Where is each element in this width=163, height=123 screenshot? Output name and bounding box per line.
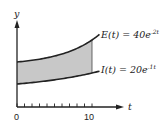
chart: y t 0 10 E(t) = 40e.2t I(t) = 20e.1t [0, 0, 163, 123]
series-label-i: I(t) = 20e.1t [100, 63, 156, 75]
series-label-e: E(t) = 40e.2t [100, 28, 160, 40]
x-tick-label-10: 10 [84, 112, 94, 122]
y-axis-arrow [15, 20, 20, 28]
x-axis-label: t [128, 101, 132, 112]
x-axis-arrow [116, 105, 124, 110]
x-tick-label-0: 0 [14, 112, 19, 122]
y-axis-label: y [13, 8, 20, 19]
